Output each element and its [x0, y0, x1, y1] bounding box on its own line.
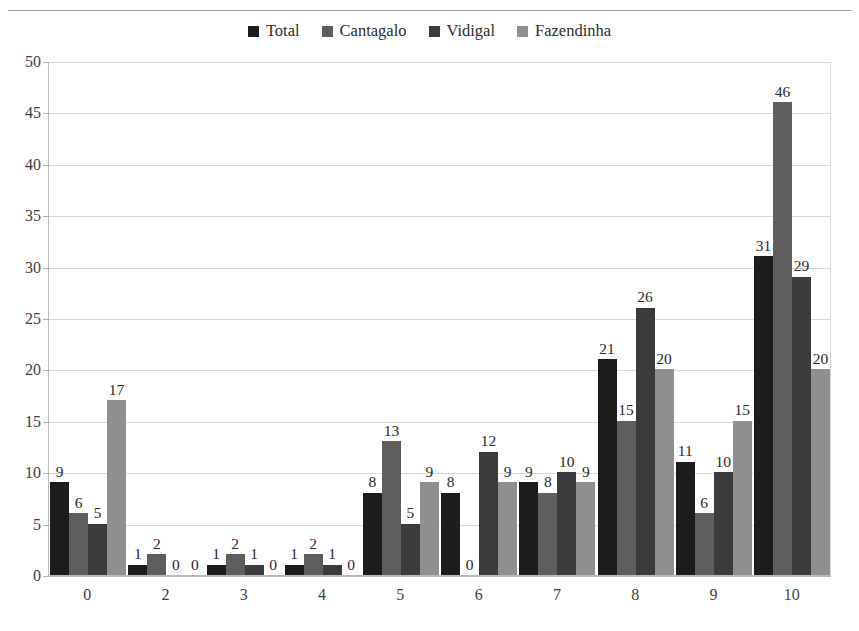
bar-slot[interactable]: 1	[245, 62, 264, 575]
bar[interactable]	[441, 493, 460, 575]
bar[interactable]	[50, 482, 69, 575]
bar[interactable]	[363, 493, 382, 575]
bar-slot[interactable]: 1	[207, 62, 226, 575]
bar-slot[interactable]: 46	[773, 62, 792, 575]
bar-value-label: 9	[525, 464, 533, 480]
bar[interactable]	[69, 513, 88, 575]
bar-slot[interactable]: 0	[460, 62, 479, 575]
bar-group: 80129	[440, 62, 518, 575]
bar[interactable]	[245, 565, 264, 575]
legend-item[interactable]: Cantagalo	[322, 23, 407, 40]
bar-slot[interactable]: 8	[441, 62, 460, 575]
bar[interactable]	[733, 421, 752, 575]
legend-item[interactable]: Vidigal	[429, 23, 496, 40]
x-tick-label: 2	[126, 578, 204, 608]
bar-slot[interactable]: 10	[714, 62, 733, 575]
x-tick-label: 6	[439, 578, 517, 608]
bar-value-label: 6	[700, 495, 708, 511]
bar[interactable]	[655, 369, 674, 575]
bar-value-label: 15	[734, 402, 750, 418]
bar[interactable]	[557, 472, 576, 575]
bar-slot[interactable]: 17	[107, 62, 126, 575]
y-tick-mark	[43, 576, 49, 577]
bar-slot[interactable]: 9	[519, 62, 538, 575]
bar-slot[interactable]: 5	[88, 62, 107, 575]
bar[interactable]	[792, 277, 811, 575]
bar-slot[interactable]: 0	[264, 62, 283, 575]
bar-slot[interactable]: 2	[147, 62, 166, 575]
bar[interactable]	[323, 565, 342, 575]
bar-slot[interactable]: 13	[382, 62, 401, 575]
bar-group: 1210	[205, 62, 283, 575]
bar-slot[interactable]: 26	[636, 62, 655, 575]
bar[interactable]	[420, 482, 439, 575]
bar-slot[interactable]: 15	[733, 62, 752, 575]
bar[interactable]	[714, 472, 733, 575]
bar[interactable]	[479, 452, 498, 575]
bar[interactable]	[147, 554, 166, 575]
y-tick-label: 0	[1, 568, 41, 584]
bar-value-label: 20	[813, 351, 829, 367]
x-tick-label: 7	[518, 578, 596, 608]
bar-slot[interactable]: 8	[363, 62, 382, 575]
bar-value-label: 11	[678, 443, 693, 459]
bar[interactable]	[382, 441, 401, 575]
bar[interactable]	[226, 554, 245, 575]
bar-value-label: 0	[191, 557, 199, 573]
bar-slot[interactable]: 2	[304, 62, 323, 575]
bar-slot[interactable]: 2	[226, 62, 245, 575]
bar-slot[interactable]: 0	[185, 62, 204, 575]
bar[interactable]	[695, 513, 714, 575]
bar[interactable]	[498, 482, 517, 575]
bar[interactable]	[519, 482, 538, 575]
bar[interactable]	[811, 369, 830, 575]
bar-slot[interactable]: 9	[576, 62, 595, 575]
bar-slot[interactable]: 1	[323, 62, 342, 575]
bar-slot[interactable]: 9	[420, 62, 439, 575]
bar[interactable]	[636, 308, 655, 575]
bar[interactable]	[576, 482, 595, 575]
legend-item[interactable]: Fazendinha	[517, 23, 611, 40]
bar-slot[interactable]: 31	[754, 62, 773, 575]
bar-slot[interactable]: 9	[498, 62, 517, 575]
bar-group: 1161015	[675, 62, 753, 575]
bar[interactable]	[754, 256, 773, 575]
bar-slot[interactable]: 5	[401, 62, 420, 575]
bar-slot[interactable]: 12	[479, 62, 498, 575]
bar-slot[interactable]: 8	[538, 62, 557, 575]
bar[interactable]	[773, 102, 792, 575]
bar[interactable]	[128, 565, 147, 575]
bar-slot[interactable]: 20	[811, 62, 830, 575]
legend-label: Total	[266, 23, 300, 40]
bar[interactable]	[617, 421, 636, 575]
bar[interactable]	[401, 524, 420, 575]
bar-slot[interactable]: 6	[69, 62, 88, 575]
bar-slot[interactable]: 6	[695, 62, 714, 575]
bar-slot[interactable]: 1	[285, 62, 304, 575]
bar-slot[interactable]: 21	[598, 62, 617, 575]
bar-slot[interactable]: 11	[676, 62, 695, 575]
bar[interactable]	[88, 524, 107, 575]
bar-value-label: 0	[172, 557, 180, 573]
bar-value-label: 29	[794, 258, 810, 274]
x-axis-labels: 02345678910	[48, 578, 831, 608]
y-tick-label: 15	[1, 414, 41, 430]
bar[interactable]	[598, 359, 617, 575]
bar-slot[interactable]: 15	[617, 62, 636, 575]
bar-group: 81359	[362, 62, 440, 575]
bar-slot[interactable]: 29	[792, 62, 811, 575]
bar-slot[interactable]: 0	[166, 62, 185, 575]
bar[interactable]	[676, 462, 695, 575]
bar-slot[interactable]: 10	[557, 62, 576, 575]
bar[interactable]	[538, 493, 557, 575]
bar[interactable]	[207, 565, 226, 575]
legend-item[interactable]: Total	[248, 23, 300, 40]
bar[interactable]	[304, 554, 323, 575]
bar-slot[interactable]: 1	[128, 62, 147, 575]
bar-slot[interactable]: 20	[655, 62, 674, 575]
bar[interactable]	[107, 400, 126, 575]
bar[interactable]	[285, 565, 304, 575]
bar-slot[interactable]: 0	[342, 62, 361, 575]
bar-value-label: 12	[481, 433, 497, 449]
bar-slot[interactable]: 9	[50, 62, 69, 575]
